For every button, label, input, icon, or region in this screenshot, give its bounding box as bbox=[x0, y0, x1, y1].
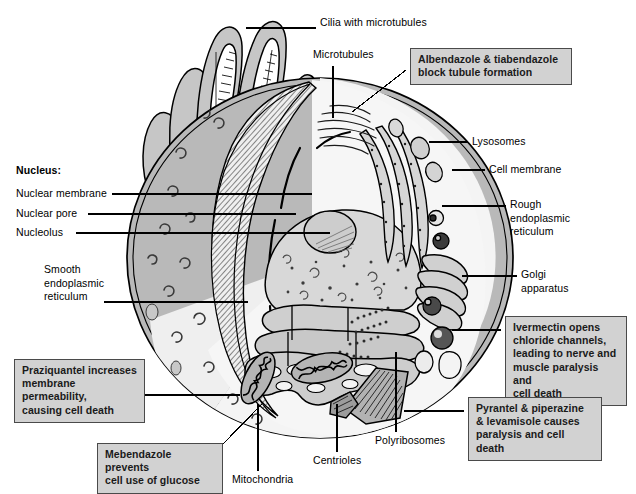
callout-praziquantel: Praziquantel increases membrane permeabi… bbox=[14, 359, 145, 423]
callout-mebendazole: Mebendazole prevents cell use of glucose bbox=[97, 443, 223, 494]
label-nuclear-pore: Nuclear pore bbox=[16, 207, 77, 221]
label-centrioles: Centrioles bbox=[313, 454, 361, 468]
label-rough-endoplasmic-reticulum: Rough endoplasmic reticulum bbox=[510, 198, 570, 239]
cell-diagram-figure: Cilia with microtubules Microtubules Lys… bbox=[0, 0, 636, 494]
callout-albendazole: Albendazole & tiabendazole block tubule … bbox=[410, 48, 572, 85]
label-golgi-apparatus: Golgi apparatus bbox=[521, 268, 569, 295]
label-smooth-endoplasmic-reticulum: Smooth endoplasmic reticulum bbox=[44, 263, 104, 304]
label-nucleolus: Nucleolus bbox=[16, 226, 63, 240]
label-microtubules: Microtubules bbox=[313, 48, 374, 62]
label-nucleus-heading: Nucleus: bbox=[16, 164, 61, 178]
callout-pyrantel: Pyrantel & piperazine & levamisole cause… bbox=[468, 397, 602, 461]
label-nuclear-membrane: Nuclear membrane bbox=[16, 187, 107, 201]
label-mitochondria: Mitochondria bbox=[232, 473, 293, 487]
label-polyribosomes: Polyribosomes bbox=[375, 434, 445, 448]
label-cell-membrane: Cell membrane bbox=[489, 163, 562, 177]
golgi-vesicle bbox=[431, 327, 453, 349]
label-cilia-with-microtubules: Cilia with microtubules bbox=[320, 16, 427, 30]
label-lysosomes: Lysosomes bbox=[472, 135, 526, 149]
callout-ivermectin: Ivermectin opens chloride channels, lead… bbox=[505, 316, 627, 406]
